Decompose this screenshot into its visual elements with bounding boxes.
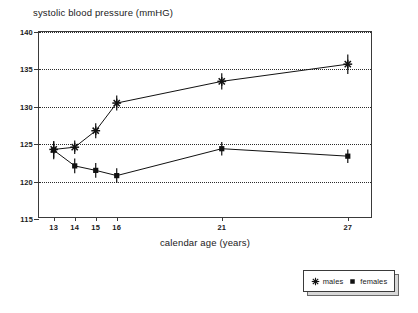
data-point-males-14 [70,143,79,152]
data-point-females-21 [219,146,224,151]
x-axis-title: calendar age (years) [38,237,372,248]
legend-label-females: females [360,277,387,286]
chart-title: systolic blood pressure (mmHG) [33,7,173,18]
plot-area: 115120125130135140 131415162127 [38,31,372,218]
y-tick-mark-115 [34,219,39,220]
x-tick-label-27: 27 [343,223,352,232]
data-point-males-16 [112,99,121,108]
y-tick-label-135: 135 [20,65,33,74]
y-tick-label-115: 115 [20,215,33,224]
data-point-males-27 [343,60,352,69]
data-point-males-15 [91,126,100,135]
data-point-females-14 [72,163,77,168]
x-tick-label-16: 16 [112,223,121,232]
legend-entry-females: females [348,277,387,286]
series-line-males [54,64,348,149]
x-tick-label-21: 21 [217,223,226,232]
data-point-females-15 [93,168,98,173]
series-males [49,54,352,157]
data-point-females-27 [345,154,350,159]
x-tick-label-14: 14 [70,223,79,232]
legend: males females [303,270,395,292]
data-point-females-13 [51,148,56,153]
y-tick-label-125: 125 [20,140,33,149]
y-tick-label-130: 130 [20,102,33,111]
legend-box: males females [303,270,395,292]
data-point-males-21 [217,77,226,86]
legend-entry-males: males [311,277,344,286]
star-marker-icon [311,277,320,286]
y-tick-label-120: 120 [20,177,33,186]
figure-canvas: systolic blood pressure (mmHG) 115120125… [0,0,418,313]
square-marker-icon [348,277,357,286]
x-tick-label-13: 13 [49,223,58,232]
legend-label-males: males [323,277,344,286]
series-layer [39,32,373,219]
x-tick-label-15: 15 [91,223,100,232]
plot-inner: 115120125130135140 131415162127 [39,32,371,217]
series-females [51,141,350,183]
y-tick-label-140: 140 [20,28,33,37]
data-point-females-16 [114,173,119,178]
